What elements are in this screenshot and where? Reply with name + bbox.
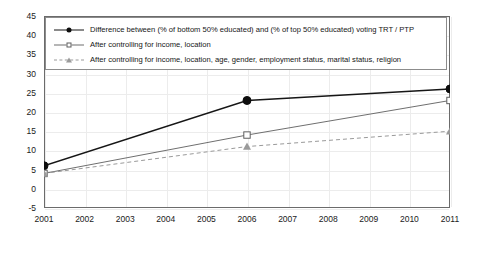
x-axis-tick-label: 2008 <box>308 214 348 224</box>
data-point-marker <box>243 96 251 104</box>
y-axis-tick-label: 10 <box>10 145 36 155</box>
chart-container: 454035302520151050-5 2001200220032004200… <box>0 0 477 255</box>
legend-item-label: Difference between (% of bottom 50% educ… <box>90 26 414 34</box>
y-axis-tick-label: 30 <box>10 69 36 79</box>
x-axis-tick-label: 2003 <box>105 214 145 224</box>
x-axis-tick-label: 2004 <box>146 214 186 224</box>
chart-legend: Difference between (% of bottom 50% educ… <box>45 17 447 70</box>
x-axis-tick-label: 2005 <box>186 214 226 224</box>
data-point-marker <box>44 162 48 170</box>
legend-item-difference: Difference between (% of bottom 50% educ… <box>52 22 440 37</box>
legend-item-controls-full: After controlling for income, location, … <box>52 52 440 67</box>
series-1 <box>44 97 450 176</box>
x-axis-tick-label: 2010 <box>389 214 429 224</box>
data-point-marker <box>447 97 450 103</box>
legend-marker-open-square-icon <box>52 39 86 51</box>
y-axis-tick-label: 35 <box>10 49 36 59</box>
y-axis-tick-label: 25 <box>10 88 36 98</box>
gridline <box>45 209 449 210</box>
y-axis-tick-label: 40 <box>10 30 36 40</box>
x-axis-tick-label: 2009 <box>349 214 389 224</box>
y-axis-tick-label: 15 <box>10 126 36 136</box>
y-axis-tick-label: 20 <box>10 107 36 117</box>
x-axis-tick-label: 2011 <box>430 214 470 224</box>
legend-marker-triangle-icon <box>52 54 86 66</box>
legend-item-label: After controlling for income, location <box>90 41 211 49</box>
x-axis-tick-label: 2001 <box>24 214 64 224</box>
series-0 <box>44 85 450 170</box>
x-axis-tick-label: 2002 <box>65 214 105 224</box>
y-axis-tick-label: -5 <box>10 203 36 213</box>
y-axis-tick-label: 5 <box>10 165 36 175</box>
legend-item-controls-income-location: After controlling for income, location <box>52 37 440 52</box>
legend-item-label: After controlling for income, location, … <box>90 56 401 64</box>
data-point-marker <box>446 127 450 134</box>
y-axis-tick-label: 45 <box>10 11 36 21</box>
data-point-marker <box>243 143 251 150</box>
x-axis-tick-label: 2007 <box>268 214 308 224</box>
data-point-marker <box>446 85 450 93</box>
gridline <box>451 17 452 207</box>
data-point-marker <box>244 132 250 138</box>
legend-marker-filled-circle-icon <box>52 24 86 36</box>
x-axis-tick-label: 2006 <box>227 214 267 224</box>
y-axis-tick-label: 0 <box>10 184 36 194</box>
